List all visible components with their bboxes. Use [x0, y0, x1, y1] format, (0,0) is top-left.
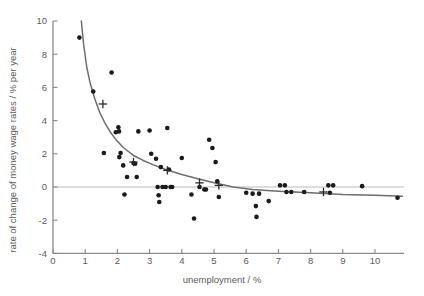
- scatter-point: [244, 191, 249, 196]
- x-tick-label: 5: [211, 255, 216, 266]
- scatter-point: [117, 155, 122, 160]
- x-tick-label: 8: [308, 255, 313, 266]
- scatter-point: [116, 125, 121, 130]
- phillips-curve-scatter-plot: 012345678910 -4-20246810 unemployment / …: [0, 0, 424, 296]
- y-tick-label: 8: [42, 49, 47, 60]
- scatter-point: [204, 187, 209, 192]
- scatter-point: [180, 156, 185, 161]
- scatter-point: [136, 129, 141, 134]
- scatter-point: [192, 216, 197, 221]
- scatter-point: [254, 215, 259, 220]
- scatter-point: [217, 195, 222, 200]
- x-tick-label: 1: [83, 255, 88, 266]
- scatter-point: [163, 185, 168, 190]
- scatter-point: [134, 175, 139, 180]
- y-tick-label: 6: [42, 82, 47, 93]
- scatter-point: [331, 183, 336, 188]
- y-tick-label: -4: [39, 248, 47, 259]
- scatter-point: [149, 152, 154, 157]
- scatter-point: [257, 191, 262, 196]
- scatter-point: [156, 193, 161, 198]
- chart-figure: 012345678910 -4-20246810 unemployment / …: [0, 0, 424, 296]
- x-tick-label: 2: [115, 255, 120, 266]
- scatter-point: [283, 183, 288, 188]
- scatter-point: [91, 89, 96, 94]
- scatter-point: [395, 195, 400, 200]
- scatter-point: [254, 204, 259, 209]
- x-tick-label: 0: [50, 255, 55, 266]
- scatter-point: [77, 35, 82, 40]
- scatter-point: [284, 190, 289, 195]
- x-tick-label: 7: [276, 255, 281, 266]
- scatter-point: [278, 183, 283, 188]
- scatter-point: [121, 163, 126, 168]
- scatter-point: [302, 190, 307, 195]
- scatter-point: [147, 128, 152, 133]
- scatter-point: [157, 200, 162, 205]
- scatter-point: [250, 191, 255, 196]
- scatter-point: [165, 126, 170, 131]
- x-tick-label: 10: [370, 255, 381, 266]
- scatter-point: [155, 185, 160, 190]
- scatter-point: [159, 165, 164, 170]
- scatter-point: [266, 199, 271, 204]
- scatter-point: [102, 151, 107, 156]
- y-axis-title: rate of change of money wage rates / % p…: [7, 47, 18, 252]
- scatter-point: [213, 160, 218, 165]
- scatter-point: [170, 185, 175, 190]
- x-tick-label: 3: [147, 255, 152, 266]
- x-tick-label: 9: [340, 255, 345, 266]
- x-tick-label: 6: [244, 255, 249, 266]
- scatter-point: [189, 192, 194, 197]
- scatter-point: [117, 129, 122, 134]
- scatter-point: [210, 146, 215, 151]
- scatter-point: [207, 137, 212, 142]
- scatter-point: [154, 156, 159, 161]
- y-tick-label: -2: [39, 215, 47, 226]
- x-tick-label: 4: [179, 255, 184, 266]
- y-tick-label: 2: [42, 148, 47, 159]
- scatter-point: [360, 184, 365, 189]
- scatter-point: [125, 175, 130, 180]
- scatter-point: [118, 151, 123, 156]
- scatter-point: [109, 70, 114, 75]
- scatter-point: [326, 183, 331, 188]
- y-tick-label: 10: [36, 15, 47, 26]
- y-tick-label: 4: [42, 115, 47, 126]
- x-axis-title: unemployment / %: [183, 274, 262, 285]
- scatter-point: [328, 191, 333, 196]
- scatter-point: [289, 190, 294, 195]
- y-tick-label: 0: [42, 181, 47, 192]
- scatter-point: [122, 192, 127, 197]
